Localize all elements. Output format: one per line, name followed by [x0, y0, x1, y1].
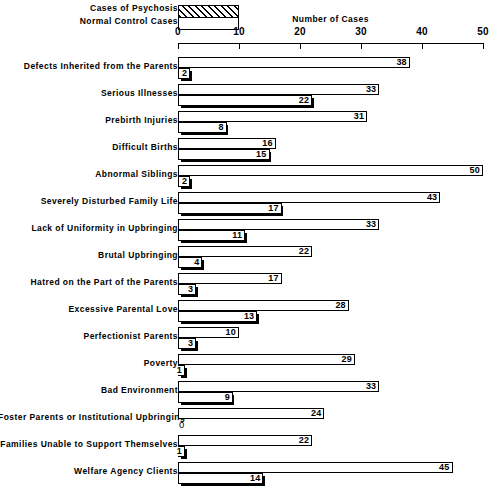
bar-value-control: 9: [224, 393, 231, 402]
bar-psychosis: 16: [178, 138, 276, 149]
row-label: Poverty: [0, 358, 178, 368]
row-label: Welfare Agency Clients: [0, 466, 178, 476]
bar-control: 3: [178, 284, 196, 295]
x-tick-label-10: 10: [233, 26, 245, 37]
bar-control: 1: [178, 365, 185, 376]
x-tick-30: [361, 43, 362, 49]
x-tick-label-20: 20: [294, 26, 306, 37]
row-label: Severely Disturbed Family Life: [0, 196, 178, 206]
bar-value-control: 11: [231, 231, 243, 240]
x-tick-50: [483, 43, 484, 49]
x-axis-line: [178, 43, 483, 44]
bar-control: 2: [178, 176, 190, 187]
bar-control: 14: [178, 473, 263, 484]
x-axis-title: Number of Cases: [178, 14, 483, 24]
x-tick-label-50: 50: [477, 26, 489, 37]
row-label: Families Unable to Support Themselves: [0, 439, 178, 449]
bar-psychosis: 33: [178, 381, 379, 392]
chart-row: Excessive Parental Love2813: [0, 298, 496, 325]
bar-control: 15: [178, 149, 270, 160]
bar-psychosis: 29: [178, 354, 355, 365]
chart-row: Lack of Uniformity in Upbringing3311: [0, 217, 496, 244]
bar-control: 1: [178, 446, 185, 457]
bar-value-psychosis: 43: [426, 193, 438, 202]
bar-psychosis: 17: [178, 273, 282, 284]
x-tick-label-0: 0: [175, 26, 181, 37]
bar-psychosis: 22: [178, 435, 312, 446]
bar-psychosis: 22: [178, 246, 312, 257]
bar-psychosis: 33: [178, 219, 379, 230]
row-label: Prebirth Injuries: [0, 115, 178, 125]
chart-row: Defects Inherited from the Parents382: [0, 55, 496, 82]
bar-value-psychosis: 24: [310, 409, 322, 418]
chart-row: Poverty291: [0, 352, 496, 379]
chart-row: Foster Parents or Institutional Upbringi…: [0, 406, 496, 433]
bar-psychosis: 33: [178, 84, 379, 95]
bar-control: 4: [178, 257, 202, 268]
legend-labels: Cases of Psychosis Normal Control Cases: [8, 2, 178, 27]
bar-control: 13: [178, 311, 257, 322]
legend-label-psychosis: Cases of Psychosis: [8, 2, 178, 15]
bar-control: 8: [178, 122, 227, 133]
bar-value-psychosis: 38: [395, 58, 407, 67]
chart-row: Families Unable to Support Themselves221: [0, 433, 496, 460]
row-label: Brutal Upbringing: [0, 250, 178, 260]
bar-value-control: 1: [176, 366, 183, 375]
chart-row: Prebirth Injuries318: [0, 109, 496, 136]
row-label: Difficult Births: [0, 142, 178, 152]
bar-value-psychosis: 22: [298, 436, 310, 445]
row-label: Hatred on the Part of the Parents: [0, 277, 178, 287]
bar-value-psychosis: 28: [334, 301, 346, 310]
bar-psychosis: 31: [178, 111, 367, 122]
bar-psychosis: 50: [178, 165, 483, 176]
row-label: Excessive Parental Love: [0, 304, 178, 314]
bar-control: 3: [178, 338, 196, 349]
chart-row: Difficult Births1615: [0, 136, 496, 163]
bar-psychosis: 43: [178, 192, 440, 203]
x-tick-40: [422, 43, 423, 49]
row-label: Serious Illnesses: [0, 88, 178, 98]
bar-value-control: 8: [218, 123, 225, 132]
bar-value-psychosis: 33: [365, 220, 377, 229]
x-tick-label-30: 30: [355, 26, 367, 37]
bar-value-control: 17: [267, 204, 279, 213]
bar-control: 22: [178, 95, 312, 106]
x-tick-20: [300, 43, 301, 49]
row-label: Defects Inherited from the Parents: [0, 61, 178, 71]
bar-value-control: 2: [181, 177, 188, 186]
bar-value-psychosis: 50: [469, 166, 481, 175]
bar-psychosis: 10: [178, 327, 239, 338]
bar-value-control: 15: [255, 150, 267, 159]
row-label: Perfectionist Parents: [0, 331, 178, 341]
bar-value-control: 3: [187, 339, 194, 348]
x-tick-10: [239, 43, 240, 49]
bar-value-psychosis: 10: [225, 328, 237, 337]
bar-control: 2: [178, 68, 190, 79]
bar-value-psychosis: 29: [340, 355, 352, 364]
bar-value-psychosis: 33: [365, 382, 377, 391]
bar-value-psychosis: 31: [353, 112, 365, 121]
chart-row: Serious Illnesses3322: [0, 82, 496, 109]
bar-control: 17: [178, 203, 282, 214]
bar-value-control: 14: [249, 474, 261, 483]
x-tick-label-40: 40: [416, 26, 428, 37]
chart-row: Abnormal Siblings502: [0, 163, 496, 190]
bar-control: 9: [178, 392, 233, 403]
chart-row: Welfare Agency Clients4514: [0, 460, 496, 487]
x-axis: 01020304050: [0, 26, 496, 52]
bar-psychosis: 28: [178, 300, 349, 311]
chart-row: Severely Disturbed Family Life4317: [0, 190, 496, 217]
bar-value-control: 13: [243, 312, 255, 321]
bar-psychosis: 24: [178, 408, 324, 419]
bar-value-psychosis: 22: [298, 247, 310, 256]
row-label: Abnormal Siblings: [0, 169, 178, 179]
x-tick-0: [178, 43, 179, 49]
chart-row: Bad Environment339: [0, 379, 496, 406]
bar-value-control: 1: [176, 447, 183, 456]
bar-psychosis: 38: [178, 57, 410, 68]
row-label: Lack of Uniformity in Upbringing: [0, 223, 178, 233]
chart-rows: Defects Inherited from the Parents382Ser…: [0, 55, 496, 487]
row-label: Bad Environment: [0, 385, 178, 395]
